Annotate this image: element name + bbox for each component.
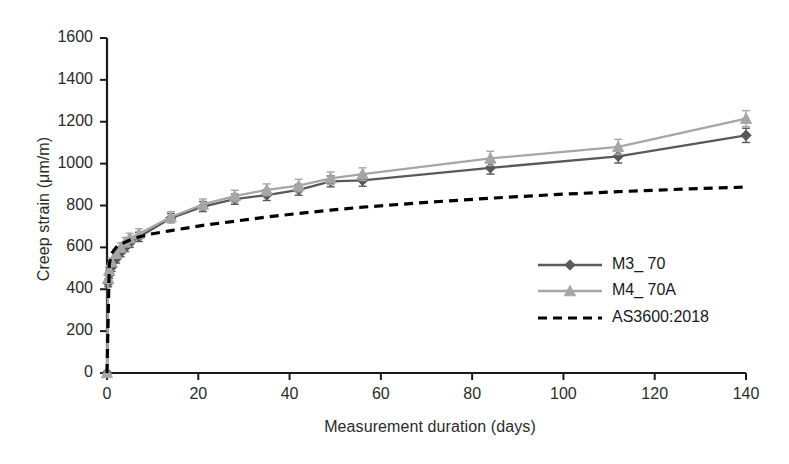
data-point-marker xyxy=(741,130,751,140)
plot-area xyxy=(0,0,789,464)
creep-strain-chart: Creep strain (μm/m) Measurement duration… xyxy=(0,0,789,464)
series-line xyxy=(107,119,746,373)
data-point-marker xyxy=(740,113,751,123)
legend-swatch-2 xyxy=(538,285,602,295)
legend-item-label: M3_ 70 xyxy=(612,255,665,273)
legend-item-label: AS3600:2018 xyxy=(612,308,709,326)
legend-swatch-1 xyxy=(538,260,602,270)
data-point-marker xyxy=(565,260,575,270)
legend-item-label: M4_ 70A xyxy=(612,281,676,299)
